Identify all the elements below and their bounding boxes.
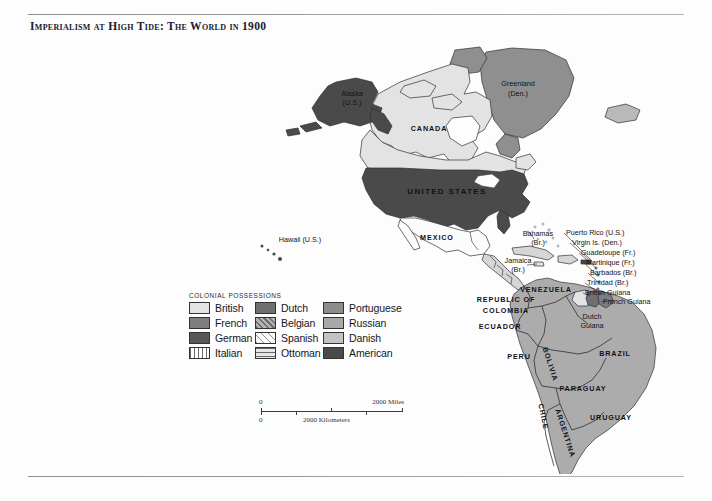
map-label-british-guiana: British Guiana — [585, 288, 630, 297]
legend-label-german: German — [215, 332, 252, 344]
scale-miles-end: 2000 Miles — [372, 398, 404, 406]
map-label-martinique: Martinique (Fr.) — [586, 258, 635, 267]
page-title: Imperialism at High Tide: The World in 1… — [30, 20, 266, 32]
map-label-puerto-rico: Puerto Rico (U.S.) — [566, 228, 624, 237]
legend-grid: BritishDutchPortugueseFrenchBelgianRussi… — [189, 302, 429, 359]
legend-swatch-american — [323, 347, 344, 359]
legend-label-french: French — [215, 317, 247, 329]
legend-label-dutch: Dutch — [281, 302, 308, 314]
legend-label-spanish: Spanish — [281, 332, 318, 344]
map-label-french-guiana: French Guiana — [603, 297, 651, 306]
map-label-bahamas-br: (Br.) — [531, 238, 545, 247]
legend-label-british: British — [215, 302, 243, 314]
map-label-mexico: MEXICO — [420, 233, 454, 242]
map-label-bahamas: Bahamas — [523, 229, 554, 238]
legend-item-russian: Russian — [323, 317, 429, 329]
map-label-paraguay: PARAGUAY — [559, 384, 606, 393]
map-label-greenland-den: (Den.) — [508, 89, 528, 98]
legend-label-ottoman: Ottoman — [281, 347, 321, 359]
map-label-colombia-1: REPUBLIC OF — [477, 295, 536, 304]
map-label-venezuela: VENEZUELA — [520, 285, 572, 294]
legend-swatch-ottoman — [255, 347, 276, 359]
legend-item-american: American — [323, 347, 429, 359]
scale-bar-line — [259, 408, 404, 415]
map-label-alaska-us: (U.S.) — [343, 98, 362, 107]
legend-swatch-british — [189, 302, 210, 314]
legend-label-portuguese: Portuguese — [349, 302, 402, 314]
legend-item-french: French — [189, 317, 255, 329]
legend-item-spanish: Spanish — [255, 332, 323, 344]
legend-swatch-german — [189, 332, 210, 344]
scale-miles-start: 0 — [259, 398, 263, 406]
legend-swatch-spanish — [255, 332, 276, 344]
map-legend: Colonial Possessions BritishDutchPortugu… — [189, 292, 429, 359]
map-label-uruguay: URUGUAY — [590, 413, 632, 422]
top-divider-rule — [28, 14, 684, 15]
legend-item-portuguese: Portuguese — [323, 302, 429, 314]
scale-km-end: 2000 Kilometers — [303, 416, 350, 424]
map-label-canada: CANADA — [411, 124, 448, 133]
map-label-guadeloupe: Guadeloupe (Fr.) — [581, 248, 635, 257]
legend-swatch-belgian — [255, 317, 276, 329]
legend-label-russian: Russian — [349, 317, 386, 329]
map-label-trinidad: Trinidad (Br.) — [587, 278, 628, 287]
map-label-united-states: UNITED STATES — [407, 187, 486, 196]
map-label-dutch-guiana: Dutch — [583, 312, 602, 321]
legend-swatch-dutch — [255, 302, 276, 314]
legend-item-ottoman: Ottoman — [255, 347, 323, 359]
legend-label-belgian: Belgian — [281, 317, 315, 329]
map-label-brazil: BRAZIL — [599, 349, 631, 358]
map-label-barbados: Barbados (Br.) — [590, 268, 636, 277]
map-page: Imperialism at High Tide: The World in 1… — [0, 0, 712, 501]
map-label-peru: PERU — [507, 352, 531, 361]
legend-swatch-italian — [189, 347, 210, 359]
map-label-jamaica: Jamaica — [505, 256, 532, 265]
map-label-alaska: Alaska — [341, 89, 363, 98]
legend-swatch-russian — [323, 317, 344, 329]
map-label-jamaica-br: (Br.) — [511, 265, 525, 274]
legend-swatch-portuguese — [323, 302, 344, 314]
legend-item-dutch: Dutch — [255, 302, 323, 314]
bottom-divider-rule — [28, 476, 684, 477]
map-label-colombia-2: COLOMBIA — [483, 306, 529, 315]
legend-item-belgian: Belgian — [255, 317, 323, 329]
legend-item-german: German — [189, 332, 255, 344]
legend-swatch-french — [189, 317, 210, 329]
legend-item-danish: Danish — [323, 332, 429, 344]
map-label-dutch-guiana-2: Guiana — [580, 321, 603, 330]
legend-item-british: British — [189, 302, 255, 314]
legend-heading: Colonial Possessions — [189, 292, 429, 299]
legend-label-italian: Italian — [215, 347, 242, 359]
legend-swatch-danish — [323, 332, 344, 344]
legend-item-italian: Italian — [189, 347, 255, 359]
scale-km-start: 0 — [259, 416, 263, 424]
map-label-hawaii: Hawaii (U.S.) — [279, 235, 321, 244]
legend-label-danish: Danish — [349, 332, 381, 344]
map-label-greenland: Greenland — [501, 79, 535, 88]
map-label-virgin-islands: Virgin Is. (Den.) — [572, 238, 622, 247]
scale-bar: 0 2000 Miles 0 2000 Kilometers — [259, 398, 404, 425]
legend-label-american: American — [349, 347, 393, 359]
map-label-ecuador: ECUADOR — [479, 322, 522, 331]
